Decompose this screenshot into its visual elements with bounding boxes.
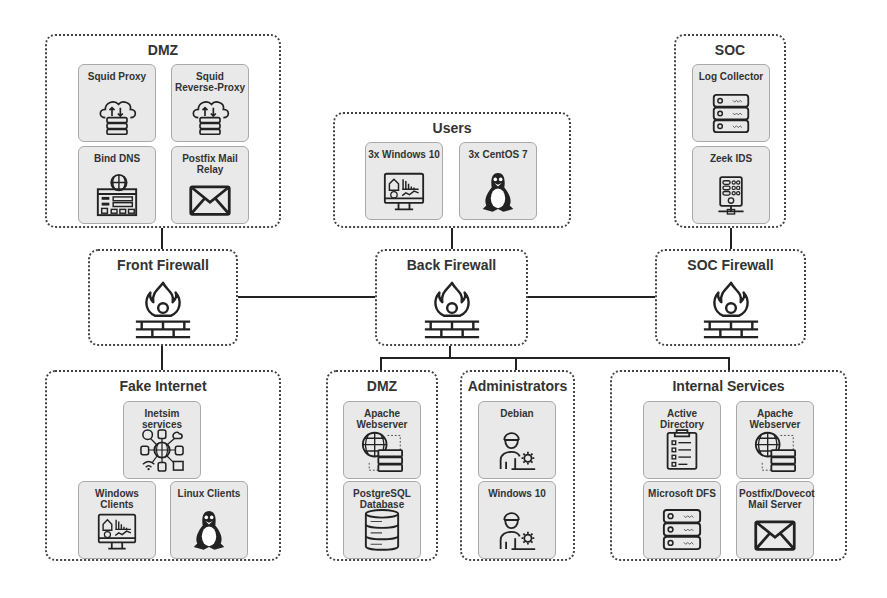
card-inetsim-services[interactable]: Inetsim services [123, 401, 201, 479]
firewall-icon [132, 279, 194, 341]
link-bus-dmz [380, 357, 382, 371]
back-firewall[interactable]: Back Firewall [375, 249, 528, 346]
card-label: Postfix Mail Relay [172, 153, 248, 175]
card-debian[interactable]: Debian [478, 401, 556, 479]
card-label: 3x Windows 10 [366, 149, 442, 160]
card-label: Windows 10 [479, 488, 555, 499]
cloud-server-icon [190, 97, 230, 135]
link-bus-internal-services [728, 357, 730, 371]
cloud-server-icon [97, 97, 137, 135]
card-squid-proxy[interactable]: Squid Proxy [78, 64, 156, 142]
group-soc: SOC Log Collector Zeek IDS [674, 34, 786, 228]
card-label: Log Collector [693, 71, 769, 82]
front-firewall[interactable]: Front Firewall [88, 249, 238, 346]
card-postgresql-database[interactable]: PostgreSQL Database [343, 481, 421, 559]
card-linux-clients[interactable]: Linux Clients [170, 481, 248, 559]
card-label: Postfix/Dovecot Mail Server [737, 488, 813, 510]
firewall-icon [421, 279, 483, 341]
firewall-title: Back Firewall [377, 257, 526, 273]
link-dmz-front-firewall [161, 227, 163, 250]
group-title: Fake Internet [47, 378, 279, 394]
linux-penguin-icon [191, 508, 227, 552]
card-apache-webserver[interactable]: Apache Webserver [343, 401, 421, 479]
card-label: Bind DNS [79, 153, 155, 164]
card-label: Squid Proxy [79, 71, 155, 82]
firewall-title: SOC Firewall [657, 257, 804, 273]
firewall-icon [700, 279, 762, 341]
card-microsoft-dfs[interactable]: Microsoft DFS [643, 481, 721, 559]
card-squid-reverse-proxy[interactable]: Squid Reverse-Proxy [171, 64, 249, 142]
group-title: DMZ [328, 378, 436, 394]
card-label: Microsoft DFS [644, 488, 720, 499]
group-dmz-bottom: DMZ Apache Webserver PostgreSQL Database [326, 370, 438, 561]
dns-globe-icon [94, 173, 140, 217]
group-title: Users [335, 120, 569, 136]
card-bind-dns[interactable]: Bind DNS [78, 146, 156, 224]
linux-penguin-icon [480, 171, 516, 213]
web-server-icon [753, 430, 797, 472]
link-soc-soc-firewall [730, 227, 732, 250]
link-bus-administrators [515, 357, 517, 371]
card-label: Apache Webserver [344, 408, 420, 430]
card-apache-webserver-internal[interactable]: Apache Webserver [736, 401, 814, 479]
database-icon [363, 508, 401, 552]
group-title: SOC [676, 42, 784, 58]
group-title: Administrators [462, 378, 573, 394]
monitor-dashboard-icon [96, 512, 138, 552]
soc-firewall[interactable]: SOC Firewall [655, 249, 806, 346]
link-internal-bus [380, 357, 730, 359]
clipboard-checklist-icon [664, 426, 700, 472]
server-rack-icon [661, 508, 703, 552]
card-windows-clients[interactable]: Windows Clients [78, 481, 156, 559]
card-label: Zeek IDS [693, 153, 769, 164]
card-zeek-ids[interactable]: Zeek IDS [692, 146, 770, 224]
group-internal-services: Internal Services Active Directory Apach… [610, 370, 847, 561]
group-administrators: Administrators Debian Windows 10 [460, 370, 575, 561]
server-rack-icon [711, 93, 751, 135]
card-windows-10-admin[interactable]: Windows 10 [478, 481, 556, 559]
link-front-firewall-fake-internet [161, 345, 163, 371]
network-server-icon [713, 175, 749, 217]
admin-user-icon [497, 508, 537, 552]
card-centos-7[interactable]: 3x CentOS 7 [459, 142, 537, 220]
group-title: DMZ [47, 42, 279, 58]
card-label: Squid Reverse-Proxy [172, 71, 248, 93]
group-users: Users 3x Windows 10 3x CentOS 7 [333, 112, 571, 228]
mail-envelope-icon [188, 184, 232, 217]
card-windows-10[interactable]: 3x Windows 10 [365, 142, 443, 220]
card-label: PostgreSQL Database [344, 488, 420, 510]
network-hub-icon [139, 428, 185, 472]
card-label: Debian [479, 408, 555, 419]
card-label: Inetsim services [124, 408, 200, 430]
card-active-directory[interactable]: Active Directory [643, 401, 721, 479]
card-label: Apache Webserver [737, 408, 813, 430]
link-front-back-firewall [237, 296, 376, 298]
card-postfix-dovecot-mail-server[interactable]: Postfix/Dovecot Mail Server [736, 481, 814, 559]
mail-envelope-icon [753, 519, 797, 552]
firewall-title: Front Firewall [90, 257, 236, 273]
card-label: Windows Clients [79, 488, 155, 510]
card-label: 3x CentOS 7 [460, 149, 536, 160]
group-dmz-top: DMZ Squid Proxy Squid Reverse-Proxy Bind… [45, 34, 281, 228]
monitor-dashboard-icon [382, 171, 426, 213]
group-fake-internet: Fake Internet Inetsim services Windows C… [45, 370, 281, 561]
link-users-back-firewall [451, 227, 453, 250]
link-back-soc-firewall [527, 296, 655, 298]
card-postfix-mail-relay[interactable]: Postfix Mail Relay [171, 146, 249, 224]
web-server-icon [360, 430, 404, 472]
admin-user-icon [497, 428, 537, 472]
card-log-collector[interactable]: Log Collector [692, 64, 770, 142]
group-title: Internal Services [612, 378, 845, 394]
card-label: Linux Clients [171, 488, 247, 499]
